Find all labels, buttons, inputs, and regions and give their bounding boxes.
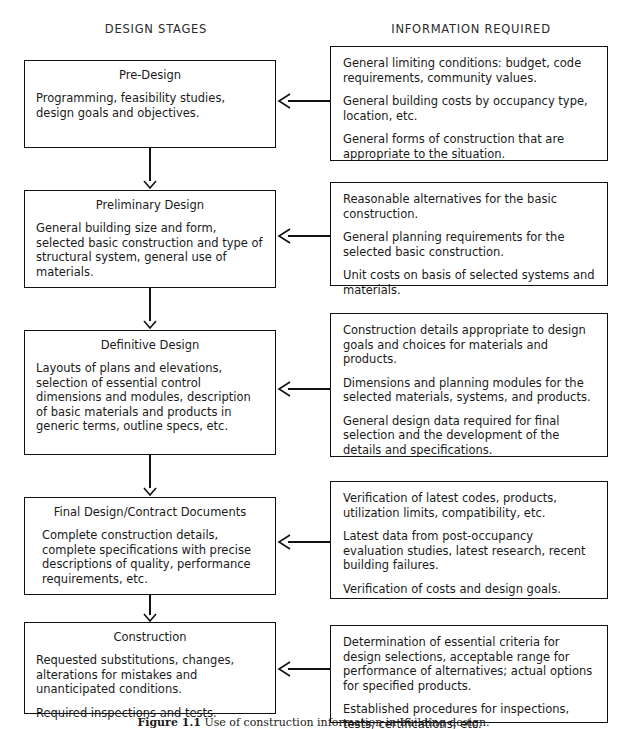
info-connector-line-2 <box>288 235 330 237</box>
info-box-construction: Determination of essential criteria for … <box>330 625 608 723</box>
column-header-information-required: INFORMATION REQUIRED <box>326 22 616 36</box>
info-arrow-left-1 <box>277 93 291 109</box>
info-paragraph: General design data required for final s… <box>343 414 597 458</box>
figure-caption-text: Use of construction information in build… <box>204 716 489 729</box>
info-paragraph: General planning requirements for the se… <box>343 230 597 259</box>
flow-arrow-down-3 <box>143 487 157 496</box>
stage-box-construction: Construction Requested substitutions, ch… <box>24 622 276 714</box>
flow-arrow-down-2 <box>143 320 157 329</box>
stage-title: Final Design/Contract Documents <box>25 498 275 519</box>
info-paragraph: Construction details appropriate to desi… <box>343 323 597 367</box>
stage-paragraph: General building size and form, selected… <box>36 221 264 279</box>
stage-title: Pre-Design <box>25 61 275 82</box>
flow-connector-line-2 <box>149 288 151 321</box>
stage-box-final-design-contract-documents: Final Design/Contract Documents Complete… <box>24 497 276 595</box>
info-paragraph: General forms of construction that are a… <box>343 132 597 161</box>
stage-box-definitive-design: Definitive Design Layouts of plans and e… <box>24 330 276 455</box>
flow-arrow-down-1 <box>143 180 157 189</box>
info-body: Construction details appropriate to desi… <box>331 314 607 465</box>
info-connector-line-4 <box>288 541 330 543</box>
info-arrow-left-2 <box>277 228 291 244</box>
stage-paragraph: Layouts of plans and elevations, selecti… <box>36 361 264 434</box>
info-paragraph: Dimensions and planning modules for the … <box>343 376 597 405</box>
info-paragraph: Latest data from post-occupancy evaluati… <box>343 529 597 573</box>
stage-paragraph: Complete construction details, complete … <box>42 528 264 586</box>
flow-connector-line-3 <box>149 455 151 488</box>
flow-connector-line-1 <box>149 148 151 181</box>
stage-title: Preliminary Design <box>25 191 275 212</box>
stage-body: Layouts of plans and elevations, selecti… <box>25 352 275 440</box>
info-connector-line-3 <box>288 388 330 390</box>
flow-arrow-down-4 <box>143 613 157 622</box>
info-body: Verification of latest codes, products, … <box>331 482 607 604</box>
stage-title: Construction <box>25 623 275 644</box>
info-box-preliminary-design: Reasonable alternatives for the basic co… <box>330 182 608 286</box>
info-arrow-left-3 <box>277 381 291 397</box>
column-header-design-stages: DESIGN STAGES <box>0 22 312 36</box>
info-box-pre-design: General limiting conditions: budget, cod… <box>330 46 608 161</box>
info-body: Reasonable alternatives for the basic co… <box>331 183 607 305</box>
stage-body: Programming, feasibility studies, design… <box>25 82 275 126</box>
info-paragraph: Reasonable alternatives for the basic co… <box>343 192 597 221</box>
info-box-final-design: Verification of latest codes, products, … <box>330 481 608 599</box>
stage-paragraph: Requested substitutions, changes, altera… <box>36 653 264 697</box>
stage-box-pre-design: Pre-Design Programming, feasibility stud… <box>24 60 276 148</box>
info-paragraph: Verification of latest codes, products, … <box>343 491 597 520</box>
flow-connector-line-4 <box>149 595 151 615</box>
info-paragraph: General building costs by occupancy type… <box>343 94 597 123</box>
info-body: Determination of essential criteria for … <box>331 626 607 729</box>
info-paragraph: General limiting conditions: budget, cod… <box>343 56 597 85</box>
figure-number: Figure 1.1 <box>137 716 200 729</box>
stage-title: Definitive Design <box>25 331 275 352</box>
stage-body: General building size and form, selected… <box>25 212 275 285</box>
info-connector-line-1 <box>288 100 330 102</box>
stage-box-preliminary-design: Preliminary Design General building size… <box>24 190 276 288</box>
stage-paragraph: Programming, feasibility studies, design… <box>36 91 264 120</box>
info-box-definitive-design: Construction details appropriate to desi… <box>330 313 608 457</box>
stage-body: Requested substitutions, changes, altera… <box>25 644 275 726</box>
stage-body: Complete construction details, complete … <box>25 519 275 592</box>
info-body: General limiting conditions: budget, cod… <box>331 47 607 169</box>
info-paragraph: Unit costs on basis of selected systems … <box>343 268 597 297</box>
figure-caption: Figure 1.1 Use of construction informati… <box>0 716 627 729</box>
info-arrow-left-5 <box>277 661 291 677</box>
info-paragraph: Verification of costs and design goals. <box>343 582 597 597</box>
info-arrow-left-4 <box>277 534 291 550</box>
info-connector-line-5 <box>288 668 330 670</box>
info-paragraph: Determination of essential criteria for … <box>343 635 597 693</box>
